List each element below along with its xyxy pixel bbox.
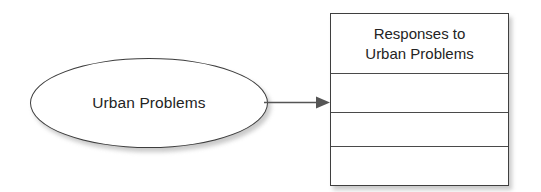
table-row[interactable]: [331, 113, 508, 147]
arrow-icon: [262, 90, 336, 116]
table-header-label: Responses to Urban Problems: [365, 24, 473, 62]
ellipse-shape: Urban Problems: [30, 58, 268, 148]
table-shape: Responses to Urban Problems: [330, 13, 509, 186]
table-row[interactable]: [331, 74, 508, 113]
source-node-ellipse[interactable]: Urban Problems: [30, 58, 268, 148]
connector-arrow: [262, 90, 336, 116]
table-header-row: Responses to Urban Problems: [331, 14, 508, 74]
source-node-label: Urban Problems: [92, 94, 205, 112]
diagram-canvas: Urban Problems Responses to Urban Proble…: [0, 0, 541, 192]
target-node-table[interactable]: Responses to Urban Problems: [330, 13, 509, 186]
table-row[interactable]: [331, 147, 508, 185]
